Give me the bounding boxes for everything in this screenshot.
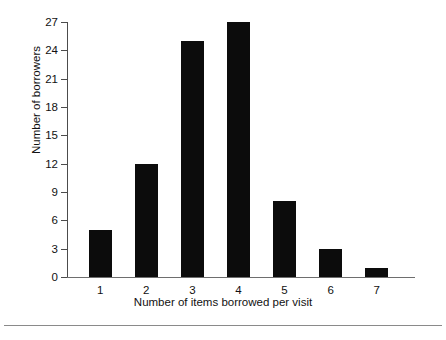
- x-tick-label: 5: [281, 284, 287, 296]
- x-tick-label: 2: [143, 284, 149, 296]
- y-tick-mark: [61, 107, 67, 108]
- y-tick-mark: [61, 249, 67, 250]
- x-tick-label: 1: [97, 284, 103, 296]
- bottom-divider: [4, 325, 442, 326]
- y-tick-mark: [61, 79, 67, 80]
- y-tick-label: 0: [52, 271, 58, 283]
- y-tick-mark: [61, 192, 67, 193]
- y-tick-label: 9: [52, 186, 58, 198]
- y-tick-label: 24: [45, 44, 58, 56]
- bar: [89, 230, 112, 277]
- bar-chart-figure: Number of borrowers 0 3 6 9 12 15: [0, 0, 446, 340]
- x-tick-label: 6: [327, 284, 333, 296]
- y-tick-mark: [61, 50, 67, 51]
- y-tick-label: 6: [52, 214, 58, 226]
- y-tick-label: 18: [45, 101, 58, 113]
- y-tick-mark: [61, 164, 67, 165]
- y-tick-mark: [61, 22, 67, 23]
- bar: [319, 249, 342, 277]
- y-tick-mark: [61, 220, 67, 221]
- y-tick-label: 3: [52, 243, 58, 255]
- y-tick-label: 27: [45, 16, 58, 28]
- bar: [273, 201, 296, 277]
- y-tick-mark: [61, 277, 67, 278]
- x-axis-line: [67, 277, 415, 278]
- bar: [181, 41, 204, 277]
- y-tick-mark: [61, 135, 67, 136]
- y-tick-label: 12: [45, 158, 58, 170]
- plot-area: 0 3 6 9 12 15 18 21: [67, 22, 415, 277]
- bar: [365, 268, 388, 277]
- x-tick-label: 3: [189, 284, 195, 296]
- y-tick-label: 15: [45, 129, 58, 141]
- bar: [135, 164, 158, 277]
- x-tick-label: 7: [374, 284, 380, 296]
- y-tick-label: 21: [45, 73, 58, 85]
- bar: [227, 22, 250, 277]
- y-axis-title: Number of borrowers: [28, 0, 44, 230]
- x-axis-title: Number of items borrowed per visit: [0, 296, 446, 308]
- y-axis-line: [67, 22, 68, 278]
- x-tick-label: 4: [235, 284, 241, 296]
